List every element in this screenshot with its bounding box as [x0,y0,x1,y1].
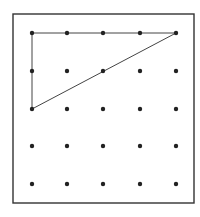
grid-dot [30,144,34,148]
grid-dot [174,31,178,35]
dot-grid [30,31,178,186]
grid-dot [101,31,105,35]
geoboard-diagram [0,0,200,217]
grid-dot [65,69,69,73]
grid-dot [138,69,142,73]
grid-dot [30,69,34,73]
grid-dot [101,144,105,148]
grid-dot [138,144,142,148]
grid-dot [138,31,142,35]
grid-dot [65,144,69,148]
grid-dot [174,69,178,73]
grid-dot [101,107,105,111]
grid-dot [174,144,178,148]
grid-dot [30,182,34,186]
grid-dot [65,182,69,186]
grid-dot [101,182,105,186]
grid-dot [138,182,142,186]
grid-dot [138,107,142,111]
grid-dot [30,31,34,35]
grid-dot [30,107,34,111]
grid-dot [65,31,69,35]
grid-dot [174,107,178,111]
grid-dot [101,69,105,73]
grid-dot [174,182,178,186]
grid-dot [65,107,69,111]
